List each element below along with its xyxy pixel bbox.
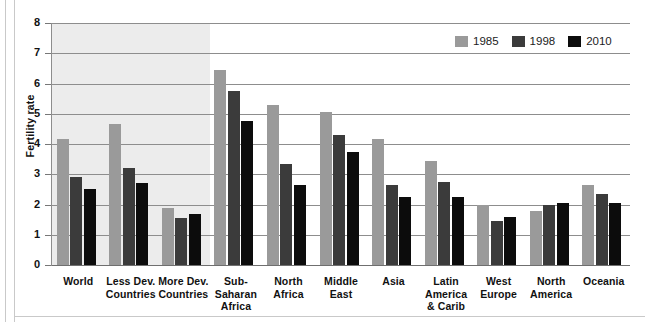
bar-group — [530, 23, 569, 265]
bar-group — [162, 23, 201, 265]
x-label-oceania: Oceania — [569, 275, 638, 288]
y-tick-mark-8 — [45, 23, 51, 24]
y-tick-mark-7 — [45, 53, 51, 54]
bar-1998-latin-america-carib — [438, 182, 450, 265]
legend-label-2010: 2010 — [586, 35, 612, 47]
bar-1998-more-dev-countries — [175, 218, 187, 265]
y-tick-mark-5 — [45, 114, 51, 115]
y-tick-label-8: 8 — [0, 16, 40, 28]
bar-group — [267, 23, 306, 265]
bar-2010-oceania — [609, 203, 621, 265]
y-axis-title: Fertility rate — [24, 66, 36, 186]
bar-2010-less-dev-countries — [136, 183, 148, 265]
y-tick-mark-1 — [45, 235, 51, 236]
y-tick-mark-0 — [45, 265, 51, 266]
y-tick-mark-6 — [45, 84, 51, 85]
bar-2010-asia — [399, 197, 411, 265]
bar-1998-oceania — [596, 194, 608, 265]
gridline-0 — [52, 265, 630, 266]
y-tick-mark-2 — [45, 205, 51, 206]
bar-2010-sub-saharan-africa — [241, 121, 253, 265]
legend-item-1998: 1998 — [512, 35, 556, 47]
legend-swatch-1985 — [455, 36, 468, 47]
bar-group — [214, 23, 253, 265]
bar-2010-west-europe — [504, 217, 516, 265]
bar-1998-north-africa — [280, 164, 292, 265]
bar-1998-less-dev-countries — [123, 168, 135, 265]
bar-group — [477, 23, 516, 265]
bar-group — [57, 23, 96, 265]
bar-1985-sub-saharan-africa — [214, 70, 226, 265]
fertility-rate-bar-chart: 012345678 Fertility rate WorldLess Dev.C… — [0, 0, 645, 322]
bar-1998-sub-saharan-africa — [228, 91, 240, 265]
bar-1985-more-dev-countries — [162, 208, 174, 265]
bar-1985-north-america — [530, 211, 542, 265]
legend-swatch-2010 — [568, 36, 581, 47]
figure-border-bottom — [14, 316, 645, 317]
bar-1998-middle-east — [333, 135, 345, 265]
bar-1985-west-europe — [477, 205, 489, 266]
legend-label-1985: 1985 — [473, 35, 499, 47]
bar-1998-world — [70, 177, 82, 265]
y-tick-label-0: 0 — [0, 258, 40, 270]
plot-area — [52, 23, 630, 265]
bar-1985-asia — [372, 139, 384, 265]
bar-1985-less-dev-countries — [109, 124, 121, 265]
bar-group — [320, 23, 359, 265]
bar-2010-middle-east — [347, 152, 359, 265]
bar-group — [372, 23, 411, 265]
y-tick-label-2: 2 — [0, 198, 40, 210]
legend-swatch-1998 — [512, 36, 525, 47]
bar-2010-north-africa — [294, 185, 306, 265]
bar-group — [425, 23, 464, 265]
bar-1998-north-america — [543, 205, 555, 266]
legend-item-2010: 2010 — [568, 35, 612, 47]
y-tick-label-1: 1 — [0, 228, 40, 240]
legend-item-1985: 1985 — [455, 35, 499, 47]
bar-1985-middle-east — [320, 112, 332, 265]
bar-1985-world — [57, 139, 69, 265]
y-tick-mark-3 — [45, 174, 51, 175]
bar-2010-north-america — [557, 203, 569, 265]
bar-2010-world — [84, 189, 96, 265]
chart-legend: 198519982010 — [455, 35, 612, 47]
bar-1985-north-africa — [267, 105, 279, 265]
y-tick-label-7: 7 — [0, 46, 40, 58]
bar-2010-more-dev-countries — [189, 214, 201, 265]
bar-group — [109, 23, 148, 265]
bar-1985-oceania — [582, 185, 594, 265]
bar-group — [582, 23, 621, 265]
bar-2010-latin-america-carib — [452, 197, 464, 265]
bar-1998-west-europe — [491, 221, 503, 265]
bar-1998-asia — [386, 185, 398, 265]
legend-label-1998: 1998 — [530, 35, 556, 47]
y-tick-mark-4 — [45, 144, 51, 145]
bar-1985-latin-america-carib — [425, 161, 437, 265]
